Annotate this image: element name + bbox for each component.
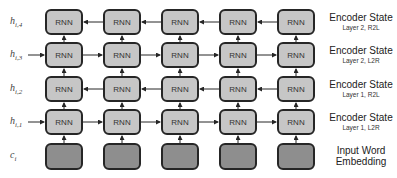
rnn-cell: RNN bbox=[45, 9, 83, 35]
rnn-cell-label: RNN bbox=[171, 51, 188, 60]
rnn-cell-label: RNN bbox=[229, 85, 246, 94]
row-label-subscript: i,3 bbox=[15, 54, 22, 62]
rnn-cell-label: RNN bbox=[287, 85, 304, 94]
rnn-cell: RNN bbox=[45, 76, 83, 102]
encoder-diagram: hi,4RNNRNNRNNRNNRNNEncoder StateLayer 2,… bbox=[0, 0, 397, 178]
rnn-cell-label: RNN bbox=[171, 118, 188, 127]
row-label-h4: hi,4 bbox=[10, 15, 22, 29]
embedding-cell bbox=[161, 143, 199, 170]
row-description-title: Encoder State bbox=[325, 79, 397, 90]
rnn-cell: RNN bbox=[103, 9, 141, 35]
row-description-h3: Encoder StateLayer 2, L2R bbox=[325, 45, 397, 65]
row-description-title: Encoder State bbox=[325, 112, 397, 123]
rnn-cell-label: RNN bbox=[229, 18, 246, 27]
rnn-cell: RNN bbox=[161, 76, 199, 102]
rnn-cell: RNN bbox=[103, 76, 141, 102]
rnn-cell: RNN bbox=[45, 42, 83, 68]
row-description-h4: Encoder StateLayer 2, R2L bbox=[325, 12, 397, 32]
rnn-cell: RNN bbox=[161, 109, 199, 135]
rnn-cell-label: RNN bbox=[287, 51, 304, 60]
rnn-cell-label: RNN bbox=[55, 18, 72, 27]
rnn-cell: RNN bbox=[103, 42, 141, 68]
embedding-cell bbox=[45, 143, 83, 170]
rnn-cell: RNN bbox=[161, 9, 199, 35]
row-description-subtitle: Embedding bbox=[325, 156, 397, 167]
rnn-cell-label: RNN bbox=[287, 118, 304, 127]
row-label-h2: hi,2 bbox=[10, 82, 22, 96]
row-label-subscript: i,4 bbox=[15, 21, 22, 29]
rnn-cell: RNN bbox=[219, 42, 257, 68]
rnn-cell-label: RNN bbox=[55, 85, 72, 94]
rnn-cell-label: RNN bbox=[113, 118, 130, 127]
row-description-subtitle: Layer 1, L2R bbox=[325, 123, 397, 132]
row-description-title: Input Word bbox=[325, 145, 397, 156]
rnn-cell: RNN bbox=[45, 109, 83, 135]
rnn-cell-label: RNN bbox=[113, 51, 130, 60]
rnn-cell: RNN bbox=[277, 9, 315, 35]
rnn-cell-label: RNN bbox=[171, 85, 188, 94]
row-description-h1: Encoder StateLayer 1, L2R bbox=[325, 112, 397, 132]
rnn-cell-label: RNN bbox=[113, 85, 130, 94]
row-label-c: ci bbox=[10, 149, 16, 163]
rnn-cell-label: RNN bbox=[287, 18, 304, 27]
rnn-cell: RNN bbox=[277, 109, 315, 135]
row-description-subtitle: Layer 2, L2R bbox=[325, 56, 397, 65]
embedding-cell bbox=[219, 143, 257, 170]
rnn-cell-label: RNN bbox=[229, 118, 246, 127]
row-description-subtitle: Layer 1, R2L bbox=[325, 90, 397, 99]
rnn-cell: RNN bbox=[277, 42, 315, 68]
rnn-cell: RNN bbox=[219, 76, 257, 102]
row-description-title: Encoder State bbox=[325, 12, 397, 23]
embedding-cell bbox=[277, 143, 315, 170]
row-label-h1: hi,1 bbox=[10, 115, 22, 129]
rnn-cell: RNN bbox=[219, 9, 257, 35]
row-description-c: Input WordEmbedding bbox=[325, 145, 397, 167]
rnn-cell-label: RNN bbox=[171, 18, 188, 27]
row-label-subscript: i,2 bbox=[15, 88, 22, 96]
embedding-cell bbox=[103, 143, 141, 170]
rnn-cell-label: RNN bbox=[55, 51, 72, 60]
row-description-title: Encoder State bbox=[325, 45, 397, 56]
row-description-subtitle: Layer 2, R2L bbox=[325, 23, 397, 32]
rnn-cell: RNN bbox=[103, 109, 141, 135]
rnn-cell-label: RNN bbox=[113, 18, 130, 27]
rnn-cell: RNN bbox=[219, 109, 257, 135]
row-label-h3: hi,3 bbox=[10, 48, 22, 62]
row-label-subscript: i,1 bbox=[15, 121, 22, 129]
rnn-cell-label: RNN bbox=[55, 118, 72, 127]
rnn-cell: RNN bbox=[161, 42, 199, 68]
row-description-h2: Encoder StateLayer 1, R2L bbox=[325, 79, 397, 99]
row-label-subscript: i bbox=[14, 155, 16, 163]
rnn-cell-label: RNN bbox=[229, 51, 246, 60]
rnn-cell: RNN bbox=[277, 76, 315, 102]
